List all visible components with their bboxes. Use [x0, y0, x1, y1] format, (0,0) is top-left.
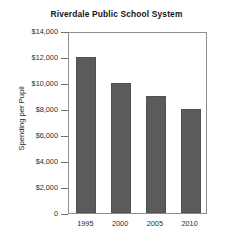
y-axis-tick-label: 0: [54, 209, 58, 218]
y-axis-tick-label: $8,000: [36, 105, 58, 114]
chart-title: Riverdale Public School System: [0, 9, 233, 19]
bar-1995: [76, 57, 96, 213]
y-axis-tick-label: $6,000: [36, 131, 58, 140]
bar-2005: [146, 96, 166, 213]
bar-chart: Riverdale Public School System Spending …: [0, 0, 233, 244]
y-axis-tick-mark: [61, 188, 68, 189]
y-axis-tick-label: $4,000: [36, 157, 58, 166]
y-axis-tick-mark: [61, 214, 68, 215]
y-axis-tick-mark: [61, 84, 68, 85]
y-axis-tick-mark: [61, 32, 68, 33]
y-axis-tick-label: $2,000: [36, 183, 58, 192]
y-axis-title: Spending per Pupil: [17, 59, 26, 179]
y-axis-tick-mark: [61, 136, 68, 137]
bar-2010: [181, 109, 201, 213]
bar-2000: [111, 83, 131, 213]
y-axis-tick-label: $12,000: [32, 53, 58, 62]
x-axis-tick-label: 2010: [170, 219, 210, 228]
y-axis-tick-label: $14,000: [32, 27, 58, 36]
y-axis-tick-label: $10,000: [32, 79, 58, 88]
plot-area: [68, 32, 207, 214]
y-axis-tick-mark: [61, 58, 68, 59]
y-axis-tick-mark: [61, 110, 68, 111]
y-axis-tick-mark: [61, 162, 68, 163]
